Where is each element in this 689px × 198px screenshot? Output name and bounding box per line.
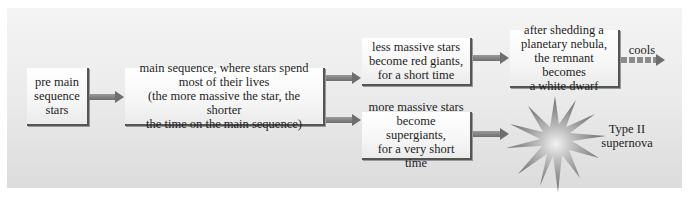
arrow-pre-to-main [89,94,124,100]
arrow-shaft [473,131,501,137]
arrow-shaft [326,117,353,123]
label-type-ii-supernova: Type II supernova [597,122,657,150]
node-more-massive: more massive stars become supergiants, f… [362,112,472,160]
arrow-cools-dotted [621,57,665,63]
node-white-dwarf-text: after shedding a planetary nebula, the r… [514,23,614,93]
node-main-sequence: main sequence, where stars spend most of… [125,68,325,126]
node-pre-main-sequence: pre main sequence stars [27,68,89,126]
arrow-shaft [621,57,657,63]
node-white-dwarf: after shedding a planetary nebula, the r… [510,30,620,88]
arrow-main-to-more-massive [326,117,361,123]
node-more-massive-text: more massive stars become supergiants, f… [366,100,466,170]
node-less-massive-text: less massive stars become red giants, fo… [369,40,463,82]
arrow-head-icon [500,52,509,64]
arrow-shaft [89,94,116,100]
node-pre-main-sequence-text: pre main sequence stars [34,75,80,117]
node-main-sequence-text: main sequence, where stars spend most of… [129,61,319,131]
arrow-head-icon [115,91,124,103]
arrow-shaft [473,55,501,61]
starburst-icon [500,94,610,194]
node-less-massive: less massive stars become red giants, fo… [362,38,472,86]
arrow-head-icon [352,114,361,126]
arrow-head-icon [656,54,665,66]
arrow-head-icon [352,72,361,84]
arrow-shaft [326,75,353,81]
arrow-less-to-white-dwarf [473,55,509,61]
arrow-main-to-less-massive [326,75,361,81]
